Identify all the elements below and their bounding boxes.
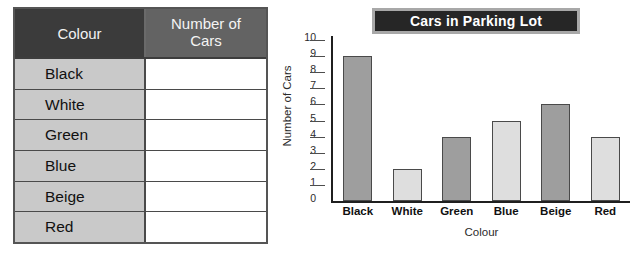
- table-row: Red: [15, 212, 266, 242]
- bar-slot-beige: [531, 40, 581, 201]
- colour-count-table: Colour Number of Cars Black White Green …: [13, 7, 268, 244]
- bar-white[interactable]: [393, 169, 422, 201]
- y-axis-tick-label: 0: [310, 193, 316, 204]
- x-axis-label-red: Red: [581, 205, 631, 217]
- chart-title-banner: Cars in Parking Lot: [372, 8, 580, 34]
- table-cell-count-white[interactable]: [146, 90, 266, 120]
- y-axis-tick-mark: [310, 185, 325, 186]
- y-axis-tick-mark: [310, 169, 325, 170]
- bar-green[interactable]: [442, 137, 471, 201]
- bar-blue[interactable]: [492, 121, 521, 202]
- y-axis-tick-mark: [310, 121, 325, 122]
- y-axis-scale: 109876543210: [296, 40, 332, 201]
- table-cell-colour-green: Green: [15, 120, 146, 150]
- table-cell-colour-blue: Blue: [15, 151, 146, 181]
- bar-slot-red: [581, 40, 631, 201]
- table-cell-colour-beige: Beige: [15, 182, 146, 212]
- x-axis-label-black: Black: [333, 205, 383, 217]
- y-axis-tick-mark: [310, 153, 325, 154]
- worksheet-page: Colour Number of Cars Black White Green …: [0, 0, 641, 257]
- bar-slot-blue: [482, 40, 532, 201]
- table-header-row: Colour Number of Cars: [15, 9, 266, 59]
- y-axis-tick-mark: [310, 88, 325, 89]
- chart-title: Cars in Parking Lot: [410, 13, 542, 29]
- bar-slot-green: [432, 40, 482, 201]
- x-axis-title: Colour: [333, 226, 630, 238]
- y-axis-title: Number of Cars: [281, 51, 293, 161]
- y-axis-tick-mark: [310, 72, 325, 73]
- bar-black[interactable]: [343, 56, 372, 201]
- table-cell-count-green[interactable]: [146, 120, 266, 150]
- table-row: Beige: [15, 182, 266, 213]
- table-row: Green: [15, 120, 266, 151]
- y-axis-tick-mark: [310, 137, 325, 138]
- bar-slot-black: [333, 40, 383, 201]
- table-cell-colour-red: Red: [15, 212, 146, 242]
- table-cell-count-beige[interactable]: [146, 182, 266, 212]
- bar-beige[interactable]: [541, 104, 570, 201]
- bars-container: [333, 40, 630, 201]
- table-cell-colour-white: White: [15, 90, 146, 120]
- x-axis-line: [331, 201, 630, 203]
- table-cell-count-blue[interactable]: [146, 151, 266, 181]
- x-axis-label-green: Green: [432, 205, 482, 217]
- table-row: Blue: [15, 151, 266, 182]
- table-cell-count-black[interactable]: [146, 59, 266, 89]
- table-header-colour: Colour: [15, 9, 146, 57]
- plot-area: 109876543210 BlackWhiteGreenBlueBeigeRed…: [296, 40, 630, 215]
- bar-chart: Cars in Parking Lot Number of Cars 10987…: [272, 0, 641, 257]
- table-cell-colour-black: Black: [15, 59, 146, 89]
- table-row: Black: [15, 59, 266, 90]
- x-axis-tick-labels: BlackWhiteGreenBlueBeigeRed: [333, 205, 630, 217]
- bar-slot-white: [383, 40, 433, 201]
- table-cell-count-red[interactable]: [146, 212, 266, 242]
- table-header-number-of-cars-line1: Number of: [171, 16, 241, 33]
- y-axis-tick-mark: [310, 104, 325, 105]
- x-axis-label-blue: Blue: [482, 205, 532, 217]
- table-header-number-of-cars-line2: Cars: [171, 33, 241, 50]
- table-header-number-of-cars: Number of Cars: [146, 9, 266, 57]
- y-axis-tick-mark: [310, 56, 325, 57]
- x-axis-label-beige: Beige: [531, 205, 581, 217]
- x-axis-label-white: White: [383, 205, 433, 217]
- y-axis-tick-mark: [310, 40, 325, 41]
- table-row: White: [15, 90, 266, 121]
- bar-red[interactable]: [591, 137, 620, 201]
